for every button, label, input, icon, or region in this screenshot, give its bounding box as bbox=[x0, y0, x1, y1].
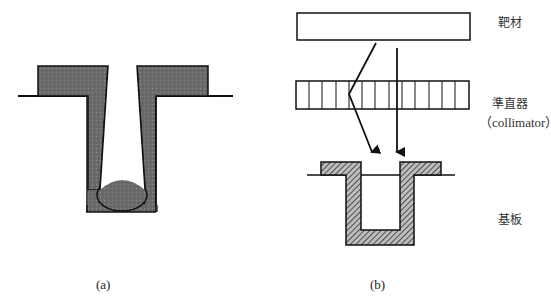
right-deposit bbox=[137, 66, 208, 211]
left-deposit bbox=[38, 66, 108, 190]
panel-b bbox=[296, 13, 470, 245]
caption-a: (a) bbox=[96, 277, 110, 293]
target-plate bbox=[297, 13, 470, 40]
label-target: 靶材 bbox=[498, 13, 522, 30]
panel-a-via bbox=[18, 66, 233, 212]
label-collimator: 準直器 bbox=[492, 94, 528, 111]
label-substrate: 基板 bbox=[498, 210, 522, 227]
diagram-canvas bbox=[0, 0, 551, 300]
collimator bbox=[296, 81, 469, 109]
label-collimator-en: （collimator） bbox=[479, 112, 551, 131]
caption-b: (b) bbox=[370, 277, 385, 293]
